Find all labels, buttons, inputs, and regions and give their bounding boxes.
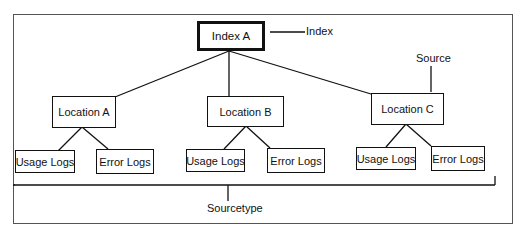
usage-logs-label: Usage Logs [16,156,75,168]
error-logs-label: Error Logs [432,153,483,165]
location-c-error-logs-node: Error Logs [431,146,485,171]
index-a-node: Index A [197,21,265,51]
location-b-label: Location B [220,106,272,118]
location-a-label: Location A [58,106,109,118]
sourcetype-annotation: Sourcetype [207,202,263,214]
location-c-label: Location C [381,103,434,115]
location-b-node: Location B [207,96,284,127]
error-logs-label: Error Logs [99,156,150,168]
source-annotation: Source [416,52,451,64]
usage-logs-label: Usage Logs [357,153,416,165]
location-a-node: Location A [52,96,116,128]
location-b-error-logs-node: Error Logs [267,148,325,173]
index-a-label: Index A [212,30,250,42]
location-c-node: Location C [371,93,444,125]
location-c-usage-logs-node: Usage Logs [356,147,416,170]
location-a-error-logs-node: Error Logs [96,149,154,174]
error-logs-label: Error Logs [270,155,321,167]
location-a-usage-logs-node: Usage Logs [15,150,75,173]
location-b-usage-logs-node: Usage Logs [186,149,245,172]
index-annotation: Index [306,25,333,37]
usage-logs-label: Usage Logs [186,155,245,167]
